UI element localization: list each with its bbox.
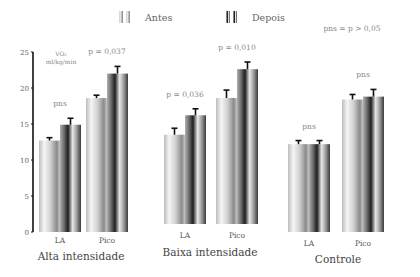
bar-antes	[39, 141, 60, 232]
bar-depois	[60, 125, 81, 232]
y-tick-label: 0	[25, 229, 29, 237]
y-axis: 0510152025	[20, 49, 33, 237]
legend-swatch-depois	[226, 11, 230, 23]
y-axis-unit-line1: VO₂	[54, 50, 67, 57]
bar-depois	[185, 115, 206, 224]
category-label: LA	[304, 239, 315, 248]
significance-annotation: pns	[356, 70, 370, 79]
group-label: Controle	[315, 253, 361, 265]
bar-chart: Antes Depois pns = p > 0,05 0510152025 V…	[0, 0, 420, 277]
legend-swatch-antes-2	[126, 11, 130, 23]
category-label: LA	[55, 236, 66, 245]
significance-annotation: pns	[302, 122, 316, 131]
significance-annotation: p = 0,010	[218, 43, 256, 52]
significance-annotation: p = 0,036	[166, 90, 204, 99]
category-label: Pico	[99, 236, 116, 245]
bar-depois	[309, 144, 330, 232]
legend-swatch-depois-2	[233, 11, 237, 23]
bar-antes	[216, 98, 237, 224]
bar-antes	[86, 98, 107, 232]
y-tick-label: 10	[20, 157, 29, 165]
legend-label-antes: Antes	[144, 12, 172, 23]
legend: Antes Depois	[119, 11, 285, 23]
bar-depois	[363, 97, 384, 232]
significance-annotation: p = 0,037	[88, 47, 126, 56]
y-tick-label: 5	[25, 193, 29, 201]
group-label: Baixa intensidade	[163, 246, 258, 258]
bar-antes	[164, 135, 185, 224]
category-label: Pico	[355, 239, 372, 248]
y-tick-label: 25	[20, 49, 29, 57]
legend-label-depois: Depois	[252, 12, 285, 23]
bar-antes	[342, 100, 363, 232]
y-axis-unit-line2: ml/kg/min	[46, 58, 77, 66]
significance-annotation: pns	[53, 99, 67, 108]
y-tick-label: 20	[20, 85, 29, 93]
bar-antes	[288, 144, 309, 232]
category-label: LA	[180, 231, 191, 240]
bar-depois	[107, 74, 128, 232]
group-label: Alta intensidade	[37, 250, 125, 262]
y-tick-label: 15	[20, 121, 29, 129]
category-label: Pico	[229, 231, 246, 240]
legend-swatch-antes	[119, 11, 123, 23]
footnote-pns: pns = p > 0,05	[323, 24, 380, 33]
bar-depois	[237, 69, 258, 224]
bars	[39, 62, 384, 232]
